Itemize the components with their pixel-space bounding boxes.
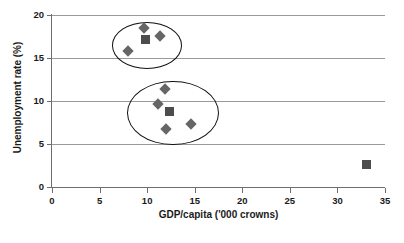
data-point-square-1: [165, 107, 174, 116]
scatter-chart-screenshot: 05101520253035 05101520 GDP/capita ('000…: [0, 0, 404, 243]
x-tick-label-35: 35: [370, 195, 400, 207]
gridline-y-10: [52, 101, 385, 102]
x-tick-label-20: 20: [227, 195, 257, 207]
gridline-y-5: [52, 144, 385, 145]
x-tick-label-30: 30: [322, 195, 352, 207]
x-tick-5: [100, 188, 101, 193]
y-tick-label-0: 0: [14, 181, 44, 193]
y-tick-20: [47, 15, 52, 16]
gridline-y-15: [52, 58, 385, 59]
x-tick-15: [195, 188, 196, 193]
x-tick-25: [290, 188, 291, 193]
x-tick-label-15: 15: [180, 195, 210, 207]
x-tick-30: [337, 188, 338, 193]
y-tick-15: [47, 58, 52, 59]
x-tick-label-10: 10: [132, 195, 162, 207]
x-tick-label-0: 0: [37, 195, 67, 207]
x-axis-line: [51, 187, 385, 188]
x-tick-label-25: 25: [275, 195, 305, 207]
x-tick-20: [242, 188, 243, 193]
y-tick-10: [47, 101, 52, 102]
data-point-square-0: [141, 35, 150, 44]
y-tick-0: [47, 187, 52, 188]
gridline-y-20: [52, 15, 385, 16]
data-point-square-2: [362, 160, 371, 169]
x-tick-label-5: 5: [85, 195, 115, 207]
x-axis-title: GDP/capita ('000 crowns): [52, 209, 385, 220]
x-tick-10: [147, 188, 148, 193]
x-tick-0: [52, 188, 53, 193]
x-tick-35: [385, 188, 386, 193]
y-tick-5: [47, 144, 52, 145]
y-axis-title: Unemployment rate (%): [12, 18, 23, 178]
